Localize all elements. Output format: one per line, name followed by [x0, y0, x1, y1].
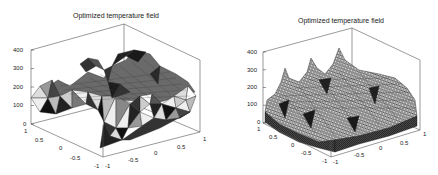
surface-plot-coarse — [0, 0, 219, 175]
x-tick-1: 1 — [203, 136, 206, 142]
x-tick-0: 0 — [379, 145, 382, 151]
x-tick-0: 0 — [154, 150, 157, 156]
y-tick-neg0.5: -0.5 — [301, 150, 311, 156]
y-tick-1: 1 — [24, 128, 27, 134]
z-tick-300: 300 — [247, 67, 257, 73]
z-tick-300: 300 — [13, 65, 23, 71]
y-tick-0: 0 — [59, 145, 62, 151]
chart-title: Optimized temperature field — [73, 12, 159, 19]
y-tick-0.5: 0.5 — [35, 137, 43, 143]
x-tick-neg1: -1 — [333, 159, 338, 165]
y-tick-neg1: -1 — [94, 163, 99, 169]
chart-panel-left: Optimized temperature field 400 300 200 … — [0, 0, 219, 175]
x-tick-1: 1 — [423, 131, 426, 137]
y-tick-neg1: -1 — [322, 158, 327, 164]
z-tick-200: 200 — [13, 84, 23, 90]
z-tick-400: 400 — [13, 47, 23, 53]
x-tick-neg1: -1 — [105, 163, 110, 169]
y-tick-1: 1 — [257, 126, 260, 132]
z-tick-100: 100 — [247, 101, 257, 107]
z-tick-400: 400 — [247, 49, 257, 55]
y-tick-0.5: 0.5 — [269, 134, 277, 140]
z-tick-100: 100 — [13, 102, 23, 108]
x-tick-0.5: 0.5 — [177, 144, 185, 150]
x-tick-0.5: 0.5 — [400, 140, 408, 146]
y-tick-0: 0 — [291, 142, 294, 148]
y-tick-neg0.5: -0.5 — [70, 155, 80, 161]
x-tick-neg0.5: -0.5 — [128, 157, 138, 163]
chart-panel-right: Optimized temperature field 400 300 200 … — [219, 0, 438, 175]
chart-title: Optimized temperature field — [298, 17, 384, 24]
z-tick-0: 0 — [23, 121, 26, 127]
z-tick-200: 200 — [247, 84, 257, 90]
z-tick-0: 0 — [257, 119, 260, 125]
x-tick-neg0.5: -0.5 — [354, 152, 364, 158]
